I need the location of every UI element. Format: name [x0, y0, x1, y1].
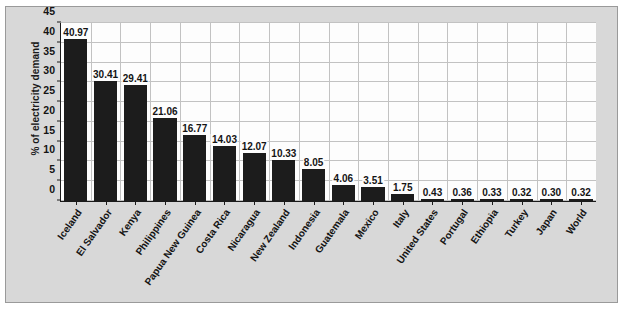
- bar-slot: 14.03: [210, 23, 240, 201]
- y-axis-tick-label: 10: [43, 143, 55, 155]
- x-label-slot: Mexico: [357, 203, 387, 303]
- x-label-slot: Ethiopia: [476, 203, 506, 303]
- y-axis-tick-label: 15: [43, 124, 55, 136]
- y-axis-tick-label: 20: [43, 104, 55, 116]
- y-axis-tick-label: 0: [49, 183, 55, 195]
- x-axis-tick-label: Iceland: [55, 207, 84, 242]
- y-axis-tick-label: 30: [43, 64, 55, 76]
- x-label-slot: Guatemala: [327, 203, 357, 303]
- bar-value-label: 30.41: [92, 69, 119, 80]
- bar-slot: 0.30: [537, 23, 567, 201]
- bar-slot: 0.36: [447, 23, 477, 201]
- bar[interactable]: 12.07: [243, 153, 266, 201]
- x-axis-tick-label: Turkey: [502, 207, 529, 240]
- x-label-slot: Japan: [536, 203, 566, 303]
- bar-slot: 29.41: [120, 23, 150, 201]
- bar-slot: 1.75: [388, 23, 418, 201]
- bar-value-label: 40.97: [62, 27, 89, 38]
- bar-value-label: 12.07: [241, 141, 268, 152]
- bar-value-label: 8.05: [303, 157, 324, 168]
- bar-value-label: 14.03: [211, 134, 238, 145]
- bar-slot: 21.06: [150, 23, 180, 201]
- bar[interactable]: 21.06: [153, 118, 176, 201]
- x-label-slot: Turkey: [506, 203, 536, 303]
- bar-value-label: 0.33: [481, 187, 502, 198]
- bar-value-label: 10.33: [270, 148, 297, 159]
- bar[interactable]: 30.41: [94, 81, 117, 201]
- y-axis-title: % of electricity demand: [30, 19, 41, 179]
- bar[interactable]: 10.33: [272, 160, 295, 201]
- x-axis-tick-label: Mexico: [353, 207, 381, 241]
- bar[interactable]: 29.41: [124, 85, 147, 201]
- y-axis-tick-label: 35: [43, 45, 55, 57]
- x-label-slot: Portugal: [446, 203, 476, 303]
- bar-slot: 10.33: [269, 23, 299, 201]
- x-axis-tick-label: Kenya: [117, 207, 143, 238]
- bar-slot: 0.33: [477, 23, 507, 201]
- bar[interactable]: 3.51: [361, 187, 384, 201]
- bar-slot: 3.51: [358, 23, 388, 201]
- bar-slot: 4.06: [328, 23, 358, 201]
- bar-slot: 0.32: [566, 23, 596, 201]
- bar-slot: 0.32: [507, 23, 537, 201]
- bar-value-label: 4.06: [333, 173, 354, 184]
- chart-figure: % of electricity demand 0510152025303540…: [5, 6, 618, 303]
- bar-value-label: 0.32: [570, 187, 591, 198]
- bar-value-label: 0.43: [422, 187, 443, 198]
- x-axis-tick-label: Italy: [390, 207, 410, 230]
- bar-series: 40.9730.4129.4121.0616.7714.0312.0710.33…: [61, 23, 596, 201]
- x-axis-labels: IcelandEl SalvadorKenyaPhilippinesPapua …: [60, 203, 595, 303]
- bar-slot: 30.41: [91, 23, 121, 201]
- bar-slot: 0.43: [418, 23, 448, 201]
- bar[interactable]: 40.97: [64, 39, 87, 201]
- x-axis-tick-label: World: [564, 207, 589, 236]
- bar[interactable]: 8.05: [302, 169, 325, 201]
- bar-value-label: 0.30: [541, 187, 562, 198]
- y-axis-tick-label: 25: [43, 84, 55, 96]
- bar[interactable]: 4.06: [332, 185, 355, 201]
- x-label-slot: United States: [417, 203, 447, 303]
- bar-slot: 12.07: [239, 23, 269, 201]
- bar-value-label: 0.32: [511, 187, 532, 198]
- x-label-slot: New Zealand: [268, 203, 298, 303]
- plot-area: 051015202530354045 40.9730.4129.4121.061…: [60, 23, 596, 202]
- bar[interactable]: 16.77: [183, 135, 206, 201]
- bar-value-label: 0.36: [451, 187, 472, 198]
- bar-value-label: 29.41: [122, 73, 149, 84]
- y-axis-tick-label: 40: [43, 25, 55, 37]
- x-label-slot: El Salvador: [90, 203, 120, 303]
- x-label-slot: World: [565, 203, 595, 303]
- bar-slot: 8.05: [299, 23, 329, 201]
- x-axis-tick-label: Japan: [534, 207, 560, 237]
- bar-slot: 16.77: [180, 23, 210, 201]
- y-axis-tick-label: 45: [43, 5, 55, 17]
- bar[interactable]: 1.75: [391, 194, 414, 201]
- bar-value-label: 16.77: [181, 123, 208, 134]
- bar[interactable]: 14.03: [213, 146, 236, 201]
- bar-slot: 40.97: [61, 23, 91, 201]
- bar-value-label: 3.51: [362, 175, 383, 186]
- bar-value-label: 21.06: [151, 106, 178, 117]
- bar-value-label: 1.75: [392, 182, 413, 193]
- y-axis-tick-label: 5: [49, 163, 55, 175]
